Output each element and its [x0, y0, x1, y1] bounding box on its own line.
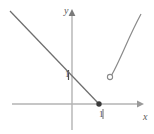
closed-point-marker — [96, 101, 101, 106]
y-axis-label: y — [64, 6, 68, 16]
y-axis-arrow-icon — [69, 9, 76, 16]
y-tick-label-1: 1 — [65, 70, 70, 79]
rising-curve-branch — [111, 14, 141, 76]
x-tick-label-1: 1 — [99, 110, 104, 119]
descending-line-branch — [10, 11, 99, 104]
x-axis-arrow-icon — [137, 101, 144, 108]
graph-canvas — [0, 0, 154, 134]
open-circle-marker — [107, 74, 112, 79]
piecewise-function-graph: y x 1 1 — [0, 0, 154, 134]
x-axis-label: x — [143, 112, 147, 122]
